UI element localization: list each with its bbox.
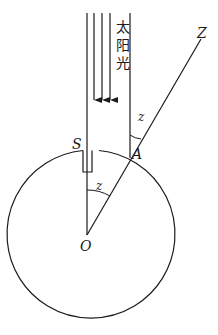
label-angle-z-at-O: z <box>95 179 103 193</box>
sunlight-label-char: 阳 <box>116 37 130 53</box>
earth-circle <box>7 151 175 319</box>
sunlight-label-char: 光 <box>116 55 130 71</box>
angle-arc-at-A <box>130 135 141 139</box>
label-zenith-Z: Z <box>196 25 207 41</box>
sunlight-label-char: 太 <box>116 19 130 35</box>
label-well-S: S <box>72 136 82 152</box>
label-angle-z-at-A: z <box>137 110 145 124</box>
label-point-A: A <box>130 146 142 162</box>
diagram: 太 阳 光 Z z S A z O <box>0 0 218 335</box>
zenith-line-OZ <box>87 39 201 235</box>
label-center-O: O <box>80 238 92 254</box>
